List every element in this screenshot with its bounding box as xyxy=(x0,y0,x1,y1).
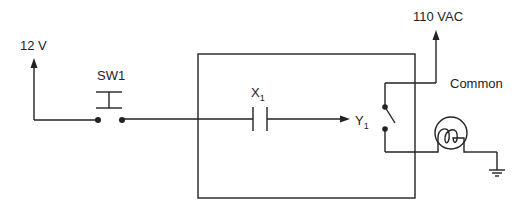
source-110vac: 110 VAC xyxy=(413,9,463,83)
label-110vac: 110 VAC xyxy=(413,9,463,24)
arrow-up-icon xyxy=(433,30,440,40)
label-common: Common xyxy=(450,76,503,91)
terminal-dot xyxy=(95,117,101,123)
contact-x1: X1 Y1 xyxy=(251,85,369,131)
relay-y1 xyxy=(382,83,436,152)
source-12v: 12 V xyxy=(20,38,98,120)
terminal-dot xyxy=(119,117,125,123)
label-12v: 12 V xyxy=(20,38,47,53)
label-y1: Y1 xyxy=(355,113,369,131)
label-x1: X1 xyxy=(251,85,265,103)
arrow-up-icon xyxy=(31,58,38,68)
circuit-diagram: 12 V SW1 X1 Y1 1 xyxy=(0,0,526,208)
switch-sw1: SW1 xyxy=(95,68,125,123)
arrow-right-icon xyxy=(340,116,350,123)
ground-icon xyxy=(489,152,505,176)
controller-box xyxy=(198,54,415,198)
label-sw1: SW1 xyxy=(97,68,125,83)
lamp-icon xyxy=(435,117,497,152)
